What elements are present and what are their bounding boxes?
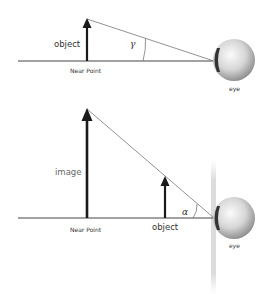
- bottom-eye-label: eye: [229, 242, 240, 250]
- image-arrow: [82, 108, 93, 218]
- angular-magnification-diagram: γ object Near Point eye α image: [0, 0, 268, 294]
- top-ray-line: [87, 19, 214, 61]
- alpha-label: α: [182, 207, 188, 217]
- bottom-eye-icon: [213, 197, 255, 239]
- bottom-near-point-label: Near Point: [70, 226, 102, 233]
- top-eye-icon: [213, 39, 255, 81]
- bottom-object-arrow: [161, 176, 170, 218]
- bottom-angle-arc: [193, 204, 197, 218]
- bottom-ray-line: [87, 109, 214, 218]
- top-object-label: object: [54, 39, 81, 49]
- bottom-object-label: object: [152, 222, 179, 232]
- gamma-label: γ: [130, 39, 136, 49]
- top-eye-label: eye: [229, 85, 240, 93]
- bottom-panel: α image Near Point object eye: [18, 108, 255, 294]
- top-near-point-label: Near Point: [70, 67, 102, 74]
- top-panel: γ object Near Point eye: [18, 18, 255, 93]
- image-label: image: [55, 167, 81, 177]
- top-angle-arc: [143, 38, 146, 61]
- top-object-arrow: [83, 18, 92, 61]
